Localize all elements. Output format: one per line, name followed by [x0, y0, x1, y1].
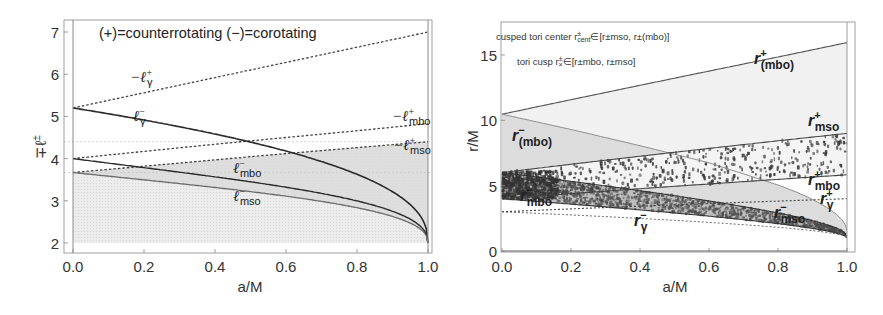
left-y-tick-label: 7	[51, 24, 59, 41]
label-neg-l-mso-plus: −ℓ+mso	[393, 135, 431, 156]
label-l-gamma-minus: ℓ−γ	[133, 106, 146, 127]
right-y-tick-label: 5	[489, 178, 497, 195]
left-y-axis-label: ∓ℓ±	[31, 135, 49, 159]
left-chart: 0.00.20.40.60.81.0234567 (+)=counterrota…	[31, 20, 438, 295]
left-y-tick-label: 5	[51, 108, 59, 125]
left-y-tick-label: 4	[51, 151, 59, 168]
label-r-mbo-paren-plus: r+(mbo)	[754, 47, 794, 72]
right-x-tick-label: 0.2	[561, 258, 582, 275]
left-y-tick-label: 2	[51, 235, 59, 252]
label-r-gamma-minus: r−γ	[634, 209, 648, 234]
right-x-tick-label: 0.8	[768, 258, 789, 275]
right-x-axis-label: a/M	[662, 278, 687, 295]
left-x-tick-label: 0.4	[205, 258, 226, 275]
right-x-tick-label: 0.6	[699, 258, 720, 275]
right-annotation-cusp: tori cusp r±×∈[r±mbo, r±mso]	[517, 55, 635, 68]
left-y-tick-label: 6	[51, 66, 59, 83]
right-x-tick-label: 0.0	[492, 258, 513, 275]
right-y-axis-label: r/M	[464, 130, 481, 152]
left-x-axis-label: a/M	[237, 278, 262, 295]
right-shaded-regions	[502, 43, 847, 238]
left-y-tick-label: 3	[51, 193, 59, 210]
right-y-tick-label: 10	[480, 112, 497, 129]
right-y-tick-label: 0	[489, 243, 497, 260]
figure: 0.00.20.40.60.81.0234567 (+)=counterrota…	[0, 0, 883, 315]
left-x-tick-label: 1.0	[418, 258, 439, 275]
left-x-tick-label: 0.2	[134, 258, 155, 275]
left-legend-annotation: (+)=counterrotating (−)=corotating	[99, 25, 317, 41]
curve-neg-l-gamma-plus	[73, 32, 428, 108]
right-chart: 0.00.20.40.60.81.0051015 cusped tori cen…	[464, 22, 857, 295]
right-x-tick-label: 1.0	[837, 258, 858, 275]
left-x-tick-label: 0.0	[63, 258, 84, 275]
left-x-tick-label: 0.8	[347, 258, 368, 275]
right-x-tick-label: 0.4	[630, 258, 651, 275]
right-y-tick-label: 15	[480, 47, 497, 64]
label-neg-l-gamma-plus: −ℓ+γ	[130, 67, 153, 88]
label-neg-l-mbo-plus: −ℓ+mbo	[392, 106, 430, 127]
right-annotation-center: cusped tori center r±cent∈[r±mso, r±(mbo…	[496, 30, 669, 43]
svg-text:∓ℓ±: ∓ℓ±	[31, 135, 49, 159]
left-x-tick-label: 0.6	[276, 258, 297, 275]
